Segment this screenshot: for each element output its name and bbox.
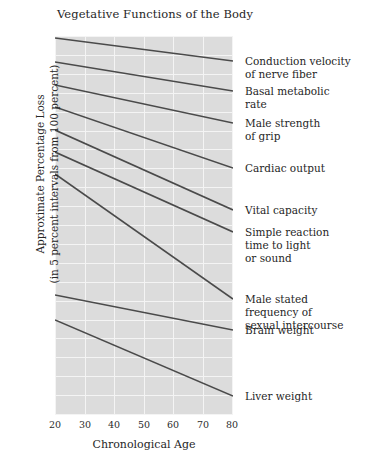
series-line	[55, 130, 233, 210]
x-axis-label: Chronological Age	[92, 438, 195, 451]
series-label: Basal metabolicrate	[245, 85, 330, 111]
series-label-line: Male stated	[245, 293, 343, 306]
series-label-line: rate	[245, 98, 330, 111]
series-label: Simple reactiontime to lightor sound	[245, 226, 329, 265]
series-label-line: Cardiac output	[245, 162, 325, 175]
series-label: Cardiac output	[245, 162, 325, 175]
series-label-line: of grip	[245, 130, 320, 143]
y-axis-label-line1: Approximate Percentage Loss	[33, 49, 47, 299]
chart-title: Vegetative Functions of the Body	[57, 7, 253, 21]
series-line	[55, 295, 233, 330]
y-axis-label: Approximate Percentage Loss (in 5 percen…	[33, 49, 61, 299]
series-label-line: or sound	[245, 252, 329, 265]
series-line	[55, 85, 233, 123]
series-line	[55, 38, 233, 61]
series-line	[55, 107, 233, 168]
series-label-line: time to light	[245, 239, 329, 252]
series-label-line: frequency of	[245, 306, 343, 319]
series-label-line: Brain weight	[245, 324, 314, 337]
x-axis-tick-label: 50	[138, 419, 150, 430]
x-axis-tick-label: 70	[197, 419, 209, 430]
series-label-line: Basal metabolic	[245, 85, 330, 98]
series-label: Brain weight	[245, 324, 314, 337]
x-axis-tick-label: 80	[226, 419, 238, 430]
series-label-line: Liver weight	[245, 390, 312, 403]
series-label-line: of nerve fiber	[245, 68, 351, 81]
series-label-line: Conduction velocity	[245, 55, 351, 68]
series-label: Male strengthof grip	[245, 117, 320, 143]
x-axis-tick-label: 60	[167, 419, 179, 430]
series-label-line: Vital capacity	[245, 204, 317, 217]
chart-figure: Vegetative Functions of the Body Chronol…	[0, 0, 367, 463]
x-axis-tick-label: 20	[49, 419, 61, 430]
x-axis-tick-label: 30	[79, 419, 91, 430]
series-label: Vital capacity	[245, 204, 317, 217]
series-line	[55, 62, 233, 91]
series-label-line: Male strength	[245, 117, 320, 130]
series-line	[55, 320, 233, 396]
x-axis-tick-label: 40	[108, 419, 120, 430]
plot-area	[55, 36, 233, 415]
series-label-line: Simple reaction	[245, 226, 329, 239]
series-label: Conduction velocityof nerve fiber	[245, 55, 351, 81]
series-label: Liver weight	[245, 390, 312, 403]
y-axis-label-line2: (in 5 percent intervals from 100 percent…	[47, 49, 61, 299]
series-lines	[55, 36, 233, 415]
